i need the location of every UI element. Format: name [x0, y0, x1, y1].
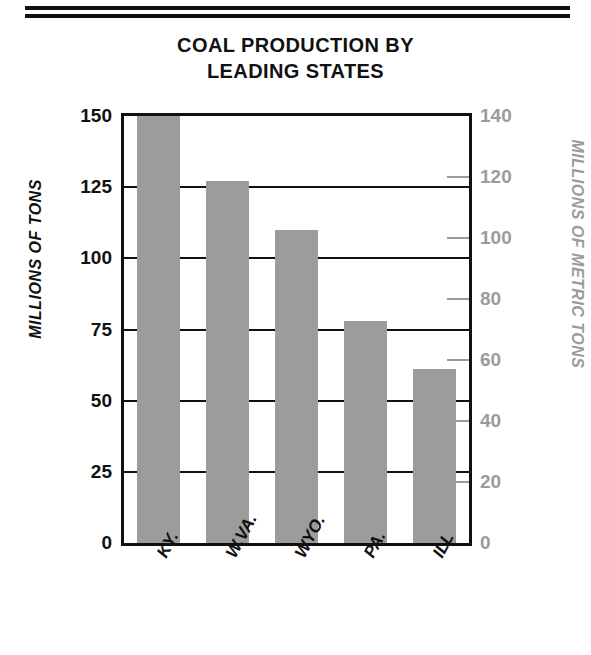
x-axis-labels: KY.W.VA.WYO.PA.ILL [121, 552, 472, 648]
left-tick-label: 75 [48, 319, 112, 341]
bar-ill [413, 369, 456, 543]
bar-pa [344, 321, 387, 543]
left-tick-label: 25 [48, 461, 112, 483]
left-axis-title: MILLIONS OF TONS [27, 159, 45, 359]
right-tick-label: 20 [480, 471, 501, 493]
right-tick-label: 80 [480, 288, 501, 310]
right-tick-label: 60 [480, 349, 501, 371]
chart-title-line2: LEADING STATES [0, 58, 591, 84]
left-axis-ticks: 0255075100125150 [44, 113, 112, 546]
left-tick-label: 0 [48, 532, 112, 554]
top-double-rule [25, 6, 570, 18]
bar-wva [206, 181, 249, 543]
bar-ky [137, 116, 180, 543]
plot-area [121, 113, 472, 546]
right-tick-label: 140 [480, 105, 512, 127]
right-axis-title: MILLIONS OF METRIC TONS [568, 129, 586, 379]
bar-wyo [275, 230, 318, 543]
chart-title: COAL PRODUCTION BY LEADING STATES [0, 32, 591, 84]
left-tick-label: 125 [48, 176, 112, 198]
right-axis-ticks: 020406080100120140 [480, 113, 540, 546]
right-tick-label: 0 [480, 532, 491, 554]
right-tick-label: 100 [480, 227, 512, 249]
chart-page: COAL PRODUCTION BY LEADING STATES MILLIO… [0, 0, 591, 655]
chart-title-line1: COAL PRODUCTION BY [0, 32, 591, 58]
rule-bottom [25, 14, 570, 18]
bar-series [124, 116, 469, 543]
right-tick-label: 40 [480, 410, 501, 432]
left-tick-label: 150 [48, 105, 112, 127]
left-tick-label: 100 [48, 247, 112, 269]
rule-top [25, 6, 570, 10]
right-tick-label: 120 [480, 166, 512, 188]
left-tick-label: 50 [48, 390, 112, 412]
